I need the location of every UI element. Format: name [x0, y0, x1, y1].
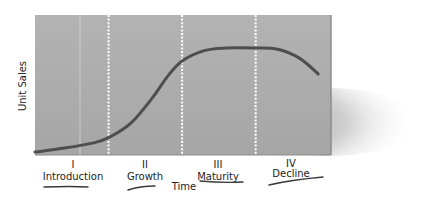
stage-underline	[44, 187, 88, 188]
product-life-cycle-diagram: Unit Sales IIntroductionIIGrowthIIIMatur…	[0, 0, 430, 201]
stage-growth: IIGrowth	[127, 159, 163, 190]
stage-underline	[128, 186, 155, 190]
stage-introduction: IIntroduction	[43, 159, 104, 187]
y-axis-label: Unit Sales	[17, 61, 28, 111]
stage-maturity: IIIMaturity	[197, 159, 243, 182]
stage-name: Decline	[272, 168, 309, 179]
stage-numeral: I	[72, 159, 75, 170]
stage-numeral: III	[214, 159, 223, 170]
stage-name: Maturity	[197, 171, 239, 182]
x-axis-label: Time	[171, 181, 196, 192]
stage-decline: IVDecline	[269, 158, 323, 185]
stage-numeral: II	[142, 159, 148, 170]
stage-name: Growth	[127, 171, 163, 182]
stage-name: Introduction	[43, 171, 104, 182]
